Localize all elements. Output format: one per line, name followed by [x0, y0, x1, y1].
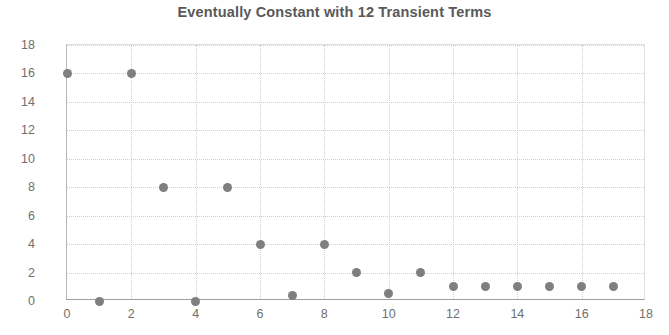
y-tick-label: 0 — [0, 294, 35, 308]
y-tick-label: 2 — [0, 266, 35, 280]
y-tick-label: 4 — [0, 237, 35, 251]
x-tick-label: 6 — [240, 307, 280, 321]
plot-area: 024681012141618 024681012141618 — [66, 44, 645, 300]
x-tick-label: 16 — [562, 307, 602, 321]
y-tick-label: 6 — [0, 209, 35, 223]
x-tick-label: 14 — [497, 307, 537, 321]
y-tick-label: 10 — [0, 152, 35, 166]
x-tick-label: 8 — [304, 307, 344, 321]
x-tick-label: 12 — [433, 307, 473, 321]
y-tick-label: 8 — [0, 180, 35, 194]
y-tick-label: 12 — [0, 123, 35, 137]
x-tick-label: 4 — [176, 307, 216, 321]
x-tick-label: 0 — [47, 307, 87, 321]
y-tick-label: 18 — [0, 38, 35, 52]
y-tick-label: 16 — [0, 66, 35, 80]
scatter-chart: Eventually Constant with 12 Transient Te… — [0, 0, 669, 335]
x-tick-label: 10 — [369, 307, 409, 321]
y-tick-label: 14 — [0, 95, 35, 109]
x-tick-label: 18 — [626, 307, 666, 321]
y-axis-tick-labels: 024681012141618 — [67, 45, 644, 299]
x-tick-label: 2 — [111, 307, 151, 321]
chart-title: Eventually Constant with 12 Transient Te… — [0, 4, 669, 20]
